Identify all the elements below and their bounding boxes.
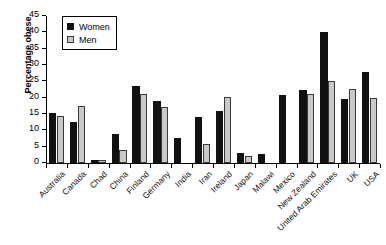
legend-swatch-men-icon — [67, 36, 74, 43]
legend-label-women: Women — [79, 22, 110, 32]
y-tick: 35 — [42, 48, 46, 49]
bar-men — [224, 97, 231, 163]
x-tick — [67, 164, 68, 168]
y-tick: 45 — [42, 15, 46, 16]
x-tick — [109, 164, 110, 168]
x-tick — [380, 164, 381, 168]
x-tick — [171, 164, 172, 168]
x-tick — [255, 164, 256, 168]
bar-group — [341, 16, 356, 163]
x-tick — [150, 164, 151, 168]
y-tick-label: 40 — [17, 25, 39, 35]
x-tick — [338, 164, 339, 168]
bar-men — [307, 94, 314, 163]
y-tick: 30 — [42, 64, 46, 65]
y-tick: 0 — [42, 162, 46, 163]
bar-women — [237, 153, 244, 163]
bar-men — [203, 144, 210, 163]
x-tick — [46, 164, 47, 168]
y-tick-label: 20 — [17, 91, 39, 101]
bar-chart: Percentage obese 051015202530354045 Aust… — [0, 0, 386, 245]
x-tick-label: Australia — [37, 169, 67, 199]
bar-women — [299, 90, 306, 163]
bar-women — [320, 32, 327, 163]
x-tick — [317, 164, 318, 168]
bar-group — [299, 16, 314, 163]
legend: Women Men — [62, 16, 117, 50]
bar-group — [132, 16, 147, 163]
bar-group — [279, 16, 294, 163]
y-tick-label: 30 — [17, 58, 39, 68]
bar-group — [237, 16, 252, 163]
bar-men — [140, 94, 147, 163]
legend-item-men: Men — [67, 33, 110, 46]
bar-men — [370, 98, 377, 163]
x-tick — [213, 164, 214, 168]
y-tick-label: 15 — [17, 107, 39, 117]
x-tick — [359, 164, 360, 168]
y-tick: 15 — [42, 113, 46, 114]
bar-men — [161, 107, 168, 163]
bar-women — [258, 154, 265, 163]
y-tick-label: 25 — [17, 74, 39, 84]
y-tick-label: 35 — [17, 42, 39, 52]
y-tick-label: 5 — [17, 140, 39, 150]
y-axis-line — [46, 16, 47, 164]
bar-women — [362, 72, 369, 163]
x-tick — [234, 164, 235, 168]
bar-group — [216, 16, 231, 163]
bar-men — [98, 160, 105, 163]
x-tick-label: USA — [361, 169, 380, 188]
x-tick — [276, 164, 277, 168]
bar-women — [195, 117, 202, 163]
bar-women — [341, 99, 348, 163]
bar-women — [153, 101, 160, 163]
y-tick: 40 — [42, 31, 46, 32]
bar-women — [216, 111, 223, 163]
bar-men — [57, 116, 64, 163]
bar-women — [112, 134, 119, 163]
bar-men — [245, 156, 252, 163]
bar-group — [362, 16, 377, 163]
bar-women — [70, 122, 77, 163]
bar-women — [279, 95, 286, 163]
bar-group — [320, 16, 335, 163]
y-tick: 5 — [42, 146, 46, 147]
bar-group — [174, 16, 189, 163]
y-tick: 20 — [42, 97, 46, 98]
x-tick — [192, 164, 193, 168]
x-tick-label: UK — [344, 169, 359, 184]
bar-women — [91, 160, 98, 163]
legend-swatch-women-icon — [67, 23, 74, 30]
bar-men — [328, 81, 335, 163]
bar-women — [132, 86, 139, 163]
x-tick — [88, 164, 89, 168]
y-tick-label: 45 — [17, 9, 39, 19]
y-tick: 10 — [42, 129, 46, 130]
x-tick-label: Malawi — [250, 169, 276, 195]
x-tick — [130, 164, 131, 168]
x-tick-label: Ireland — [209, 169, 234, 194]
bar-men — [349, 89, 356, 163]
bar-women — [49, 113, 56, 163]
legend-label-men: Men — [79, 35, 97, 45]
y-tick: 25 — [42, 80, 46, 81]
x-tick-label: Chad — [88, 169, 109, 190]
bar-men — [78, 106, 85, 163]
bar-group — [195, 16, 210, 163]
bar-men — [119, 150, 126, 163]
legend-item-women: Women — [67, 20, 110, 33]
bar-group — [153, 16, 168, 163]
y-tick-label: 10 — [17, 123, 39, 133]
bar-women — [174, 138, 181, 163]
x-tick-label: India — [173, 169, 193, 189]
y-tick-label: 0 — [17, 156, 39, 166]
x-tick — [297, 164, 298, 168]
bar-group — [258, 16, 273, 163]
